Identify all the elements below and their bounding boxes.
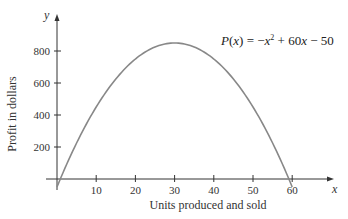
- x-tick-label: 40: [208, 184, 220, 196]
- x-tick-label: 50: [248, 184, 260, 196]
- x-axis-title: Units produced and sold: [150, 198, 267, 212]
- equation-label: P(x) = −x2 + 60x − 50: [221, 33, 334, 49]
- y-tick-label: 600: [34, 77, 51, 89]
- x-tick-label: 10: [91, 184, 103, 196]
- y-axis-arrow-icon: [55, 14, 60, 21]
- y-tick-label: 200: [34, 141, 51, 153]
- x-tick-label: 30: [169, 184, 181, 196]
- x-axis-variable: x: [331, 182, 338, 196]
- x-tick-label: 20: [130, 184, 142, 196]
- y-tick-label: 800: [34, 45, 51, 57]
- y-axis-title: Profit in dollars: [5, 76, 19, 152]
- y-axis-variable: y: [43, 8, 50, 22]
- profit-curve: [57, 43, 292, 187]
- x-axis-arrow-icon: [327, 177, 334, 182]
- y-tick-label: 400: [34, 109, 51, 121]
